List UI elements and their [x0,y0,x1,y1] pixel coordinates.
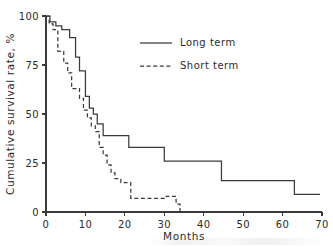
survival-chart: 0255075100 010203040506070 Long term Sho… [0,0,333,247]
figure-container: 0255075100 010203040506070 Long term Sho… [0,0,333,247]
x-tick-label: 40 [197,219,211,230]
x-tick-label: 20 [118,219,132,230]
legend-label-short-term: Short term [180,60,239,71]
legend-label-long-term: Long term [180,37,236,48]
x-axis-title: Months [163,230,205,242]
y-tick-label: 50 [25,109,39,120]
y-tick-group: 0255075100 [19,11,46,218]
y-axis-title: Cumulative survival rate, % [4,33,16,195]
x-tick-group: 010203040506070 [43,212,329,230]
y-tick-label: 0 [32,207,39,218]
survival-curve-short-term [46,16,180,212]
x-tick-label: 10 [79,219,93,230]
x-tick-label: 30 [158,219,172,230]
y-tick-label: 100 [19,11,39,22]
x-tick-label: 60 [276,219,290,230]
x-tick-label: 70 [315,219,329,230]
y-tick-label: 25 [25,158,39,169]
x-tick-label: 50 [236,219,250,230]
chart-legend: Long term Short term [140,37,239,71]
x-tick-label: 0 [43,219,50,230]
y-tick-label: 75 [25,60,39,71]
